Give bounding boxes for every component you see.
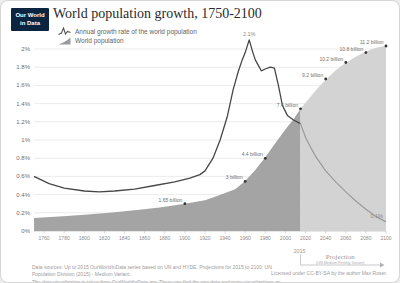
data-point-label: 11.2 billion [360,39,384,45]
x-axis-label: 1980 [260,235,271,241]
chart-legend: Annual growth rate of the world populati… [58,27,197,45]
owid-logo: Our World in Data [11,8,49,31]
data-point [324,78,327,81]
legend-item-population: World population [58,36,197,45]
projection-start-label: 2015 [293,248,305,254]
x-axis-label: 2040 [320,235,331,241]
x-axis-label: 1780 [59,235,70,241]
data-point [385,45,388,48]
chart-title: World population growth, 1750-2100 [53,6,262,22]
footer-sources-line1: Data sources: Up to 2015 OurWorldInData … [32,264,282,279]
data-point-label: 10.2 billion [319,56,343,62]
y-axis-label: 2% [21,46,30,52]
legend-label-growth-rate: Annual growth rate of the world populati… [75,28,197,35]
footer-sources-line2: The data visualization is taken from Our… [32,279,282,283]
projection-sublabel: (UN Medium Fertility Variant) [316,261,365,265]
data-point-label: 1.65 billion [158,197,182,203]
x-axis-label: 1920 [199,235,210,241]
y-axis-label: 1.6% [16,82,30,88]
data-point-label: 10.8 billion [339,46,363,52]
x-axis-label: 2060 [340,235,351,241]
y-axis-label: 0% [21,228,30,234]
data-point-label: 7.4 billion [277,102,298,108]
x-axis-label: 1900 [179,235,190,241]
y-axis-label: 1.4% [16,101,30,107]
data-point [344,61,347,64]
y-axis-label: 0.8% [16,155,30,161]
y-axis-label: 0.4% [16,192,30,198]
legend-label-population: World population [75,37,124,44]
owid-logo-line1: Our World [15,12,44,20]
x-axis-label: 1960 [240,235,251,241]
data-point-label: 4.4 billion [242,151,263,157]
growth-line-label: 0.1% [370,213,383,219]
y-axis-label: 1% [21,137,30,143]
x-axis-label: 2100 [380,235,391,241]
footer-sources: Data sources: Up to 2015 OurWorldInData … [32,264,282,283]
x-axis-label: 1880 [159,235,170,241]
x-axis-label: 2020 [300,235,311,241]
x-axis-label: 2000 [280,235,291,241]
data-point [184,202,187,205]
y-axis-label: 0.6% [16,173,30,179]
y-axis-label: 0.2% [16,210,30,216]
data-point [365,51,368,54]
growth-line-label: 2.1% [243,31,256,37]
footer-license: Licensed under CC-BY-SA by the author Ma… [271,270,387,276]
x-axis-label: 2080 [360,235,371,241]
projection-arrow [380,263,385,268]
x-axis-label: 1840 [119,235,130,241]
y-axis-label: 1.8% [16,64,30,70]
owid-logo-line2: in Data [20,20,40,28]
data-point [264,157,267,160]
x-axis-label: 1760 [38,235,49,241]
legend-item-growth-rate: Annual growth rate of the world populati… [58,27,197,36]
x-axis-label: 1940 [220,235,231,241]
x-axis-label: 1820 [99,235,110,241]
y-axis-label: 1.2% [16,119,30,125]
line-chart-icon [58,27,71,36]
x-axis-label: 1800 [79,235,90,241]
data-point-label: 9.2 billion [302,72,323,78]
data-point [299,107,302,110]
x-axis-label: 1860 [139,235,150,241]
data-point [244,180,247,183]
area-chart-icon [58,36,71,45]
chart-card: 0%0.2%0.4%0.6%0.8%1%1.2%1.4%1.6%1.8%2%17… [0,0,400,283]
data-point-label: 3 billion [226,174,243,180]
